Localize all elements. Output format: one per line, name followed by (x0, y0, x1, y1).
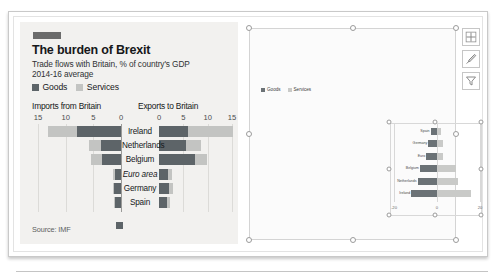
legend-label-goods: Goods (43, 82, 68, 92)
legend-item-goods: Goods (32, 82, 67, 92)
resize-handle[interactable] (246, 237, 252, 243)
axis-title-imports: Imports from Britain (32, 101, 101, 111)
bar-services (168, 169, 172, 180)
page-divider (16, 271, 488, 272)
resize-handle-inner[interactable] (387, 120, 392, 125)
tick-label: 15 (228, 113, 236, 122)
legend-label-services: Services (87, 82, 119, 92)
category-label: Belgium (122, 154, 158, 165)
resize-handle-inner[interactable] (433, 213, 438, 218)
bar-row-imports (113, 169, 121, 180)
mini-category-label: Spain (391, 128, 430, 135)
mini-category-label: Belgium (391, 165, 419, 172)
legend-swatch-services (76, 84, 83, 91)
gridline (93, 124, 94, 212)
bar-services (195, 154, 207, 165)
bar-row-exports (159, 154, 207, 165)
mini-bar-services (437, 140, 443, 147)
mini-tick-label: -20 (391, 205, 397, 210)
mini-gridline (480, 124, 481, 202)
resize-handle-inner[interactable] (433, 120, 438, 125)
mini-bar-services (437, 128, 441, 135)
bar-row-exports (159, 197, 170, 208)
plot-area: IrelandNetherlandsBelgiumEuro areaGerman… (20, 124, 238, 220)
bar-goods (159, 126, 188, 137)
resize-handle[interactable] (350, 237, 356, 243)
resize-handle[interactable] (350, 25, 356, 31)
mini-bar-goods (411, 190, 437, 197)
bar-goods (159, 183, 169, 194)
bar-row-exports (159, 169, 172, 180)
bar-services (48, 126, 77, 137)
kicker-bar (33, 32, 61, 39)
bar-services (91, 154, 102, 165)
mini-bar-services (437, 165, 456, 172)
gridline (38, 124, 39, 212)
gridline (208, 124, 209, 212)
bar-goods (159, 154, 195, 165)
legend-item-services-obj: Services (288, 87, 312, 92)
mini-bar-row (418, 178, 459, 185)
mini-bar-services (437, 190, 471, 197)
bar-goods (77, 126, 121, 137)
resize-handle-inner[interactable] (387, 213, 392, 218)
infographic-card[interactable]: The burden of Brexit Trade flows with Br… (20, 22, 238, 244)
mini-tick-label: 20 (478, 205, 483, 210)
resize-handle-inner[interactable] (387, 166, 392, 171)
resize-handle-inner[interactable] (479, 120, 484, 125)
bar-row-exports (159, 126, 233, 137)
mini-bar-row (428, 140, 443, 147)
bar-goods (159, 169, 168, 180)
gridline (232, 124, 233, 212)
bar-goods (115, 197, 121, 208)
resize-handle-inner[interactable] (479, 166, 484, 171)
chart-elements-button[interactable] (462, 28, 480, 46)
mini-bar-goods (426, 153, 437, 160)
paintbrush-icon (465, 53, 477, 65)
category-label: Ireland (122, 126, 158, 137)
mini-bar-row (411, 190, 471, 197)
mini-chart[interactable]: SpainGermanyEuroBelgiumNetherlandsIrelan… (390, 123, 482, 216)
chart-styles-button[interactable] (462, 50, 480, 68)
legend-item-goods-obj: Goods (261, 87, 281, 92)
bar-goods (115, 169, 121, 180)
category-label: Spain (122, 197, 158, 208)
bar-services (89, 140, 101, 151)
bar-row-imports (91, 154, 121, 165)
bar-goods (101, 140, 121, 151)
resize-handle[interactable] (453, 131, 459, 137)
axis-ticks-exports: 051015 (20, 113, 238, 123)
mini-category-label: Euro (391, 153, 425, 160)
chart-legend: Goods Services (32, 82, 119, 92)
bar-services (188, 126, 233, 137)
bar-row-imports (114, 197, 121, 208)
legend-swatch-goods-obj (261, 88, 265, 92)
bar-services (167, 197, 169, 208)
category-label: Netherlands (122, 140, 158, 151)
resize-handle[interactable] (246, 131, 252, 137)
resize-handle[interactable] (453, 25, 459, 31)
mini-bar-row (426, 153, 443, 160)
gridline (66, 124, 67, 212)
tick-label: 10 (203, 113, 211, 122)
resize-handle-inner[interactable] (479, 213, 484, 218)
chart-object[interactable]: Goods Services SpainGermanyEuroBelgiumNe… (249, 28, 456, 240)
legend-swatch-goods (32, 84, 39, 91)
bar-goods (159, 197, 167, 208)
tick-label: 5 (181, 113, 185, 122)
funnel-icon (465, 75, 477, 87)
mini-bar-goods (418, 178, 437, 185)
mini-bar-row (431, 128, 442, 135)
source-marker (116, 222, 123, 229)
chart-note: 2014-16 average (32, 69, 237, 79)
resize-handle[interactable] (453, 237, 459, 243)
resize-handle[interactable] (246, 25, 252, 31)
legend-item-services: Services (76, 82, 119, 92)
bar-row-exports (159, 183, 173, 194)
legend-label-goods-obj: Goods (267, 87, 281, 92)
chart-filters-button[interactable] (462, 72, 480, 90)
source-note: Source: IMF (32, 225, 71, 234)
bar-services (186, 140, 201, 151)
mini-bar-services (437, 153, 443, 160)
chart-subtitle: Trade flows with Britain, % of country's… (32, 59, 237, 70)
